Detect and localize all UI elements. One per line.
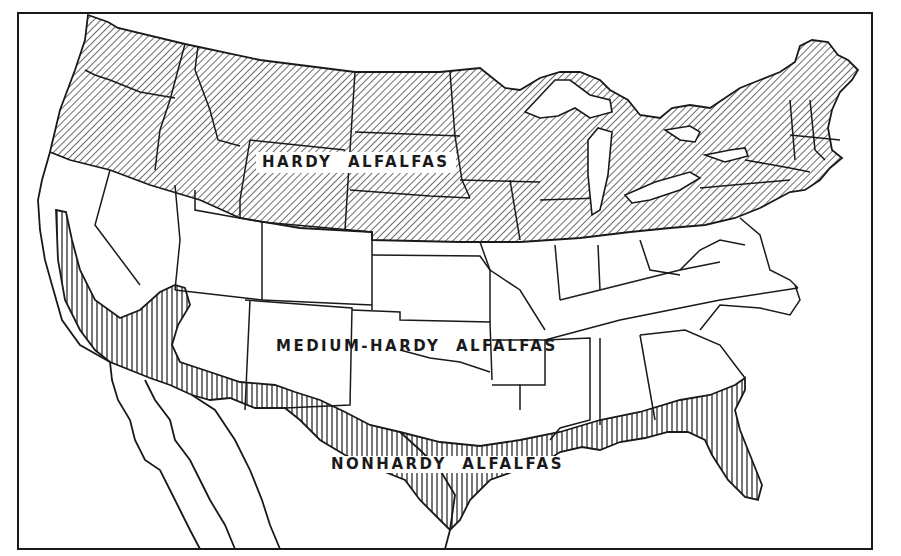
alfalfa-hardiness-map: HARDY ALFALFAS MEDIUM-HARDY ALFALFAS NON…: [0, 0, 901, 556]
medium-hardy-alfalfas-label: MEDIUM-HARDY ALFALFAS: [276, 339, 558, 354]
hardy-alfalfas-label: HARDY ALFALFAS: [256, 152, 456, 173]
gulf-of-california-outline: [145, 380, 235, 549]
mexico-mainland-outline: [192, 395, 280, 549]
nonhardy-region-west: [56, 210, 762, 530]
nonhardy-alfalfas-label: NONHARDY ALFALFAS: [328, 456, 567, 473]
